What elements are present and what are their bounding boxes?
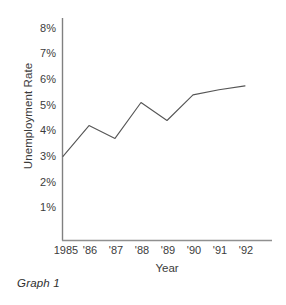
- figure-caption: Graph 1: [17, 277, 60, 289]
- x-tick-label: '92: [226, 244, 266, 256]
- unemployment-rate-line: [63, 86, 245, 156]
- x-axis-tick-labels: 1985 '86 '87 '88 '89 '90 '91 '92: [0, 244, 286, 260]
- y-tick-label: 6%: [22, 74, 56, 85]
- y-tick-label: 8%: [22, 23, 56, 34]
- y-tick-label: 4%: [22, 125, 56, 136]
- x-axis-title: Year: [62, 262, 272, 274]
- y-tick-label: 1%: [22, 202, 56, 213]
- y-tick-label: 5%: [22, 100, 56, 111]
- y-tick-label: 7%: [22, 48, 56, 59]
- unemployment-rate-line-chart: Unemployment Rate 8% 7% 6% 5% 4% 3% 2% 1…: [0, 0, 286, 305]
- y-tick-label: 3%: [22, 151, 56, 162]
- y-tick-label: 2%: [22, 177, 56, 188]
